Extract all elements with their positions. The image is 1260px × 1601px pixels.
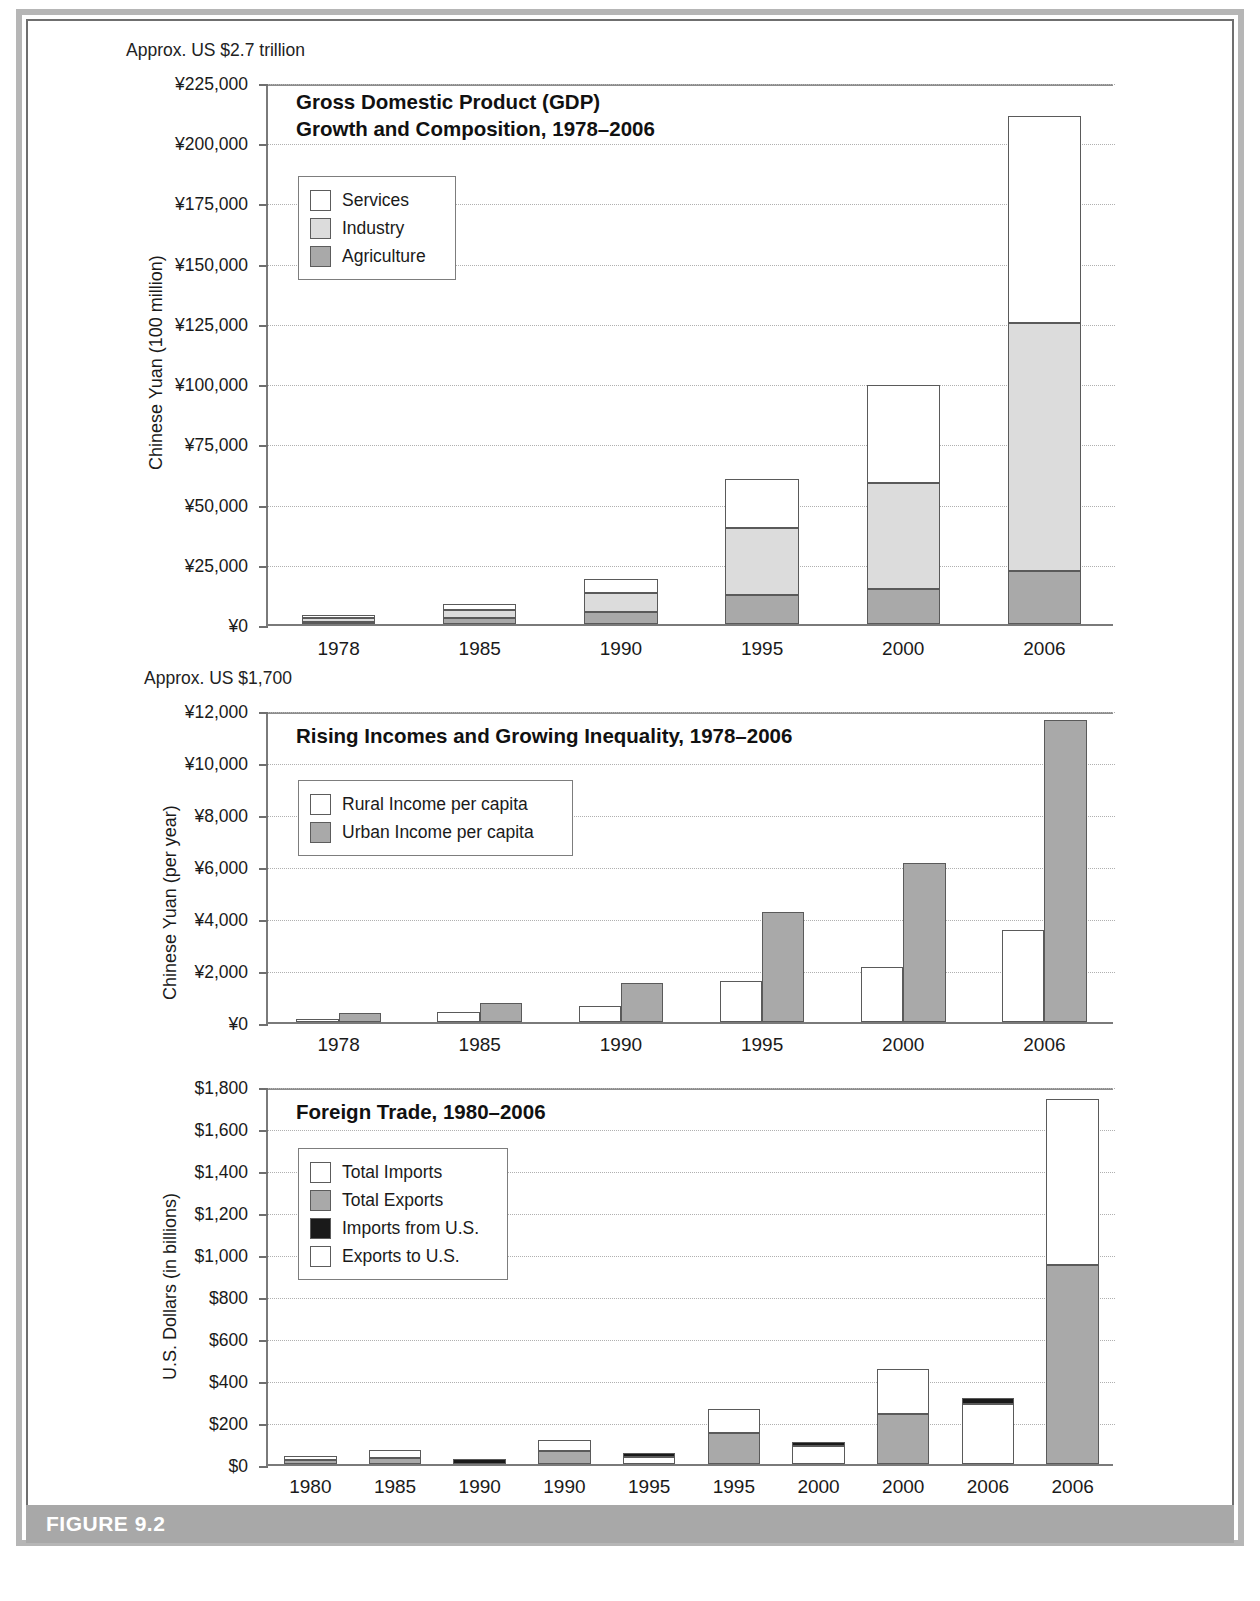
x-axis-label: 2006	[1023, 638, 1065, 660]
income-bar-rural[interactable]	[437, 1012, 479, 1022]
legend-item[interactable]: Total Exports	[310, 1186, 493, 1214]
income-bar-rural[interactable]	[861, 967, 903, 1022]
y-axis-label: ¥10,000	[185, 754, 248, 775]
legend-swatch-icon	[310, 1190, 331, 1211]
y-axis-label: ¥25,000	[185, 555, 248, 576]
y-axis-label: $200	[209, 1414, 248, 1435]
legend-item[interactable]: Total Imports	[310, 1158, 493, 1186]
y-axis-tick	[259, 1298, 268, 1300]
trade-chart: U.S. Dollars (in billions) Foreign Trade…	[0, 0, 1260, 420]
gdp-bar-segment-agriculture	[302, 622, 375, 624]
income-bar-rural[interactable]	[296, 1019, 338, 1022]
y-axis-label: ¥4,000	[194, 910, 248, 931]
trade-bar-segment	[1046, 1265, 1099, 1465]
trade-bar-segment	[623, 1453, 676, 1457]
y-axis-tick	[259, 1214, 268, 1216]
trade-stacked-bar[interactable]	[792, 1086, 845, 1464]
gridline	[268, 868, 1115, 869]
income-bar-urban[interactable]	[339, 1013, 381, 1022]
gdp-bar-segment-agriculture	[584, 612, 657, 624]
x-axis-label: 1985	[459, 1034, 501, 1056]
y-axis-tick	[259, 920, 268, 922]
gridline	[268, 506, 1115, 507]
income-plot-area: ¥0¥2,000¥4,000¥6,000¥8,000¥10,000¥12,000…	[266, 712, 1113, 1024]
x-axis-label: 1995	[713, 1476, 755, 1498]
trade-bar-segment	[284, 1456, 337, 1460]
y-axis-label: $600	[209, 1330, 248, 1351]
y-axis-tick	[259, 1130, 268, 1132]
y-axis-label: ¥75,000	[185, 435, 248, 456]
income-bar-urban[interactable]	[621, 983, 663, 1022]
x-axis-label: 2006	[1023, 1034, 1065, 1056]
x-axis-label: 1978	[317, 638, 359, 660]
y-axis-tick	[259, 1340, 268, 1342]
income-bar-urban[interactable]	[1044, 720, 1086, 1022]
x-axis-label: 1985	[459, 638, 501, 660]
y-axis-tick	[259, 1088, 268, 1090]
x-axis-label: 1990	[600, 638, 642, 660]
x-axis-label: 1990	[543, 1476, 585, 1498]
x-axis-label: 2000	[882, 1476, 924, 1498]
trade-bar-segment	[962, 1404, 1015, 1464]
gdp-bar-segment-industry	[443, 610, 516, 618]
gridline	[268, 920, 1115, 921]
x-axis-label: 2000	[882, 638, 924, 660]
x-axis-label: 1990	[600, 1034, 642, 1056]
x-axis-label: 1985	[374, 1476, 416, 1498]
gridline	[268, 764, 1115, 765]
legend-item-label: Exports to U.S.	[342, 1246, 460, 1267]
legend-item[interactable]: Urban Income per capita	[310, 818, 558, 846]
y-axis-tick	[259, 1172, 268, 1174]
legend-item[interactable]: Imports from U.S.	[310, 1214, 493, 1242]
figure-label: FIGURE 9.2	[46, 1512, 165, 1536]
income-y-axis-title: Chinese Yuan (per year)	[160, 805, 181, 1000]
trade-stacked-bar[interactable]	[623, 1086, 676, 1464]
income-bar-urban[interactable]	[762, 912, 804, 1022]
income-bar-urban[interactable]	[903, 863, 945, 1022]
y-axis-label: ¥0	[229, 1014, 248, 1035]
y-axis-label: $0	[229, 1456, 248, 1477]
trade-bar-segment	[792, 1442, 845, 1447]
y-axis-tick	[259, 626, 268, 628]
y-axis-tick	[259, 816, 268, 818]
income-bar-rural[interactable]	[720, 981, 762, 1022]
gdp-bar-segment-services	[302, 615, 375, 617]
trade-bar-segment	[708, 1409, 761, 1433]
income-bar-rural[interactable]	[579, 1006, 621, 1022]
x-axis-label: 2006	[967, 1476, 1009, 1498]
trade-stacked-bar[interactable]	[708, 1086, 761, 1464]
x-axis-label: 2000	[882, 1034, 924, 1056]
gdp-bar-segment-services	[725, 479, 798, 527]
y-axis-tick	[259, 445, 268, 447]
trade-bar-segment	[877, 1414, 930, 1464]
trade-stacked-bar[interactable]	[962, 1086, 1015, 1464]
y-axis-label: ¥2,000	[194, 962, 248, 983]
income-bar-urban[interactable]	[480, 1003, 522, 1022]
trade-y-axis-title: U.S. Dollars (in billions)	[160, 1193, 181, 1380]
y-axis-tick	[259, 972, 268, 974]
income-annotation: Approx. US $1,700	[144, 668, 292, 689]
income-bar-rural[interactable]	[1002, 930, 1044, 1022]
y-axis-label: ¥0	[229, 616, 248, 637]
x-axis-label: 1980	[289, 1476, 331, 1498]
trade-bar-segment	[538, 1440, 591, 1451]
legend-item[interactable]: Rural Income per capita	[310, 790, 558, 818]
x-axis-label: 2006	[1052, 1476, 1094, 1498]
x-axis-label: 1995	[628, 1476, 670, 1498]
y-axis-label: ¥50,000	[185, 495, 248, 516]
y-axis-label: ¥6,000	[194, 858, 248, 879]
trade-bar-segment	[284, 1460, 337, 1464]
y-axis-tick	[259, 506, 268, 508]
trade-stacked-bar[interactable]	[1046, 1086, 1099, 1464]
trade-stacked-bar[interactable]	[877, 1086, 930, 1464]
trade-legend: Total ImportsTotal ExportsImports from U…	[298, 1148, 508, 1280]
gridline	[268, 445, 1115, 446]
trade-bar-segment	[369, 1458, 422, 1464]
y-axis-label: ¥8,000	[194, 806, 248, 827]
legend-item[interactable]: Exports to U.S.	[310, 1242, 493, 1270]
trade-bar-segment	[538, 1451, 591, 1464]
y-axis-tick	[259, 1382, 268, 1384]
y-axis-label: $800	[209, 1288, 248, 1309]
trade-stacked-bar[interactable]	[538, 1086, 591, 1464]
trade-bar-segment	[453, 1459, 506, 1464]
